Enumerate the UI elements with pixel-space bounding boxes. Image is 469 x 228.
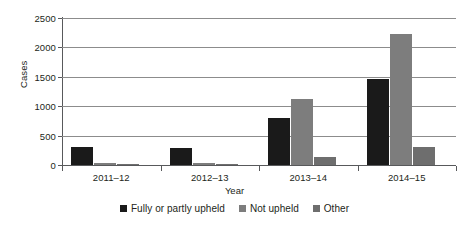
bar[interactable] [413, 147, 435, 165]
x-axis-tick-mark [62, 166, 63, 171]
legend: Fully or partly upheldNot upheldOther [0, 203, 469, 214]
bar-group [367, 18, 435, 165]
legend-label: Not upheld [250, 203, 299, 214]
y-axis-tick-label: 1000 [10, 101, 56, 112]
y-axis-tick-mark [58, 18, 62, 19]
y-axis-tick-label: 500 [10, 130, 56, 141]
bar[interactable] [314, 157, 336, 165]
y-axis-tick-mark [58, 136, 62, 137]
legend-swatch-icon [120, 205, 127, 212]
x-axis-tick-mark [456, 166, 457, 171]
plot-area [62, 18, 456, 165]
bar[interactable] [71, 147, 93, 165]
legend-label: Other [324, 203, 349, 214]
y-axis-tick-label: 2000 [10, 42, 56, 53]
x-axis-tick-mark [358, 166, 359, 171]
y-axis-tick-label: 0 [10, 160, 56, 171]
bar[interactable] [291, 99, 313, 165]
bar[interactable] [216, 164, 238, 165]
bar[interactable] [117, 164, 139, 165]
x-axis-tick-label: 2013–14 [259, 172, 358, 183]
legend-swatch-icon [239, 205, 246, 212]
x-axis-tick-mark [259, 166, 260, 171]
x-axis-tick-label: 2014–15 [358, 172, 457, 183]
y-axis-tick-mark [58, 165, 62, 166]
bar[interactable] [193, 163, 215, 165]
y-axis-tick-mark [58, 77, 62, 78]
x-axis-tick-label: 2011–12 [62, 172, 161, 183]
y-axis-tick-mark [58, 47, 62, 48]
bar-group [71, 18, 139, 165]
bar-group [170, 18, 238, 165]
y-axis-tick-label: 2500 [10, 13, 56, 24]
x-axis-tick-mark [161, 166, 162, 171]
bar[interactable] [390, 34, 412, 165]
legend-item[interactable]: Not upheld [239, 203, 299, 214]
legend-swatch-icon [313, 205, 320, 212]
x-axis-title: Year [0, 185, 469, 196]
y-axis-tick-mark [58, 106, 62, 107]
bar[interactable] [170, 148, 192, 165]
x-axis-tick-label: 2012–13 [161, 172, 260, 183]
bar-chart: Cases 05001000150020002500 2011–122012–1… [0, 0, 469, 228]
legend-label: Fully or partly upheld [131, 203, 225, 214]
bar[interactable] [94, 163, 116, 165]
legend-item[interactable]: Other [313, 203, 349, 214]
y-axis-tick-label: 1500 [10, 71, 56, 82]
bar[interactable] [367, 79, 389, 165]
bar[interactable] [268, 118, 290, 165]
bar-group [268, 18, 336, 165]
legend-item[interactable]: Fully or partly upheld [120, 203, 225, 214]
